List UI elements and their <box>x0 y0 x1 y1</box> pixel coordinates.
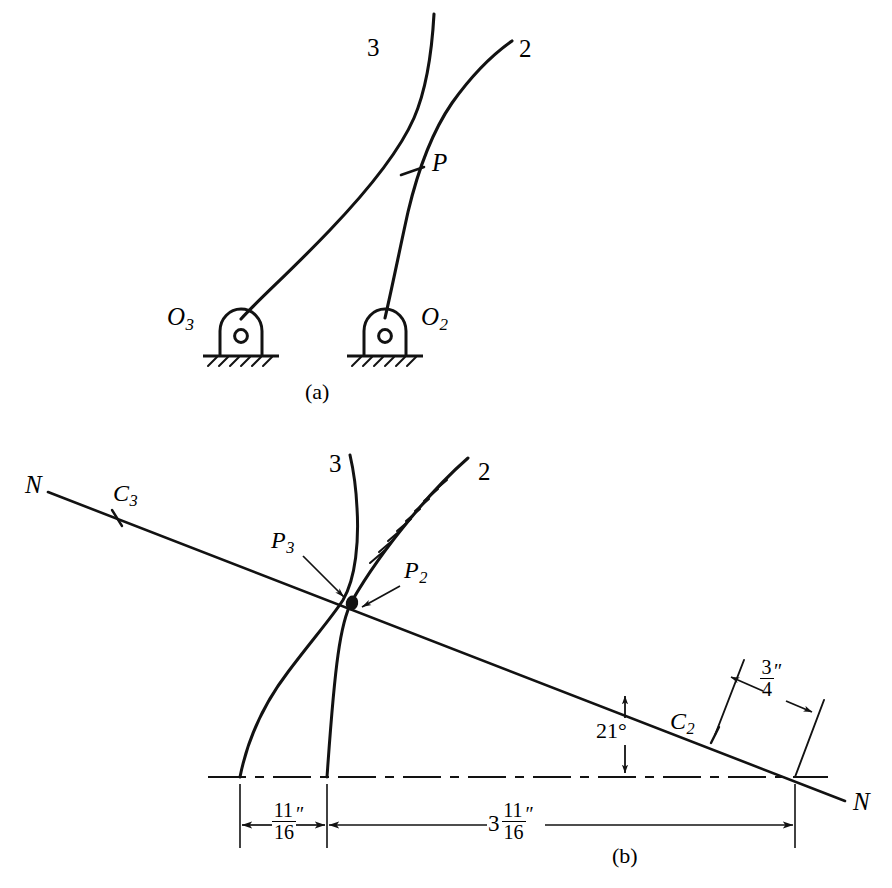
link-2-curve-panel-a <box>385 41 512 318</box>
dim-pivot-spacing-denominator: 16 <box>272 822 296 843</box>
panel-b-angle-label: 21° <box>596 720 627 742</box>
centro-c3-label-subscript: 3 <box>130 491 138 510</box>
dim-span-fraction: 11 16 <box>502 800 526 843</box>
dim-pivot-spacing-numerator: 11 <box>272 800 296 822</box>
panel-a-link-2-label: 2 <box>519 36 532 61</box>
pivot-o3-pin <box>235 330 248 343</box>
panel-b-geometry <box>48 455 845 848</box>
panel-a-link-3-label: 3 <box>367 35 380 60</box>
panel-a-geometry <box>203 14 512 366</box>
panel-a-pivot-o2-label: O2 <box>421 304 448 333</box>
p2-leader-arrow <box>362 586 400 607</box>
link-3-curve-panel-a <box>241 14 434 319</box>
dim-three-quarter-arrow-right <box>786 701 812 712</box>
point-p3-label-base: P <box>271 527 286 553</box>
panel-b-dim-span-label: 3 11 16 ″ <box>488 800 534 843</box>
figure-root: 3 2 P O3 O2 (a) N N C3 C2 3 2 P3 P2 21° … <box>0 0 892 888</box>
panel-b-dim-three-quarter-label: 3 4 ″ <box>760 657 782 700</box>
link-2-surface-hatching <box>370 480 447 563</box>
point-p2-label-subscript: 2 <box>419 568 427 587</box>
point-p2-label-base: P <box>404 557 419 583</box>
dim-span-denominator: 16 <box>502 822 526 843</box>
dim-span-whole: 3 <box>488 811 500 836</box>
dim-three-quarter-unit: ″ <box>774 660 782 682</box>
panel-b-centro-c2-label: C2 <box>670 709 695 737</box>
point-p3-label-subscript: 3 <box>286 538 294 557</box>
link-3-curve-panel-b <box>240 455 358 777</box>
centro-c3-label-base: C <box>113 480 129 506</box>
pivot-o3-ground-hatch <box>208 357 272 366</box>
panel-b-caption: (b) <box>612 845 638 867</box>
dim-three-quarter-numerator: 3 <box>760 657 774 679</box>
angle-value: 21 <box>596 718 618 743</box>
panel-b-point-p3-label: P3 <box>271 528 294 556</box>
panel-b-centro-c3-label: C3 <box>113 481 138 509</box>
dim-three-quarter-fraction: 3 4 <box>760 657 774 700</box>
panel-b-link-3-label: 3 <box>329 451 342 476</box>
pivot-o3-label-base: O <box>167 303 185 330</box>
dim-span-numerator: 11 <box>502 800 526 822</box>
panel-a-pivot-o3-label: O3 <box>167 304 194 333</box>
link-2-curve-panel-b <box>327 458 468 777</box>
pivot-o2-label-subscript: 2 <box>440 315 449 334</box>
pivot-o3-label-subscript: 3 <box>186 315 195 334</box>
c2-witness-line <box>715 660 744 735</box>
pivot-o2-pin <box>379 330 392 343</box>
normal-line-nn <box>48 492 845 801</box>
angle-unit: ° <box>618 718 627 743</box>
panel-b-link-2-label: 2 <box>478 459 491 484</box>
dim-pivot-spacing-fraction: 11 16 <box>272 800 296 843</box>
pivot-o2-ground-hatch <box>352 357 416 366</box>
dim-pivot-spacing-unit: ″ <box>296 803 304 825</box>
p3-leader-arrow <box>303 556 344 597</box>
panel-b-normal-label-right: N <box>853 789 870 814</box>
dim-span-unit: ″ <box>526 803 534 825</box>
centro-c2-label-subscript: 2 <box>687 719 695 738</box>
panel-b-point-p2-label: P2 <box>404 558 427 586</box>
figure-vector-canvas <box>0 0 892 888</box>
centro-c2-label-base: C <box>670 708 686 734</box>
dim-three-quarter-arrow-left <box>731 677 763 691</box>
dim-three-quarter-denominator: 4 <box>760 679 774 700</box>
panel-b-normal-label-left: N <box>25 472 42 497</box>
panel-a-caption: (a) <box>305 381 329 403</box>
panel-b-dim-pivot-spacing-label: 11 16 ″ <box>272 800 304 843</box>
pivot-o3-bracket <box>220 309 262 355</box>
panel-a-point-p-label: P <box>432 150 447 175</box>
pivot-o2-label-base: O <box>421 303 439 330</box>
